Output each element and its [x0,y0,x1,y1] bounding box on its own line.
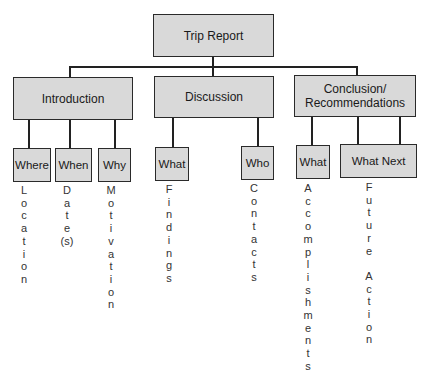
child-label: Why [103,158,126,172]
connector-to-who [257,118,259,146]
child-label: Who [246,156,270,170]
child-node-what-conclusion: What [296,145,330,179]
child-node-what-next: What Next [340,144,417,178]
child-node-where: Where [13,148,51,182]
connector-to-what-next-b [399,117,401,144]
section-label: Conclusion/ Recommendations [305,82,405,110]
connector-to-what-next-a [357,117,359,144]
child-label: What [159,157,186,171]
child-node-what-discussion: What [155,147,189,181]
connector-to-why [114,120,116,148]
root-node-trip-report: Trip Report [153,14,274,57]
root-label: Trip Report [184,29,244,43]
detail-location: L o c a t i o n [16,184,32,286]
child-node-who: Who [241,146,274,180]
child-label: When [58,158,88,172]
child-label: Where [15,158,49,172]
detail-motivation: M o t i v a t i o n [103,184,119,311]
connector-to-when [69,120,71,148]
connector-to-what-discussion [172,118,174,147]
detail-future-action: F u t u r e A c t i o n [361,181,377,346]
section-node-discussion: Discussion [154,76,274,118]
detail-accomplishments: A c c o m p l i s h m e n t s [300,182,316,373]
child-label: What Next [352,154,406,168]
connector-to-conclusion [356,66,358,75]
connector-to-what-conclusion [311,117,313,145]
connector-to-introduction [69,66,71,77]
section-node-conclusion: Conclusion/ Recommendations [294,75,416,117]
connector-to-discussion [212,66,214,76]
detail-contacts: C o n t a c t s [246,182,262,284]
section-label: Discussion [185,90,243,104]
child-node-when: When [55,148,92,182]
connector-to-where [28,120,30,148]
detail-dates: D a t e (s) [59,184,75,248]
section-node-introduction: Introduction [13,77,133,120]
detail-findings: F i n d i n g s [161,183,177,285]
child-label: What [300,155,327,169]
child-node-why: Why [98,148,131,182]
section-label: Introduction [42,92,105,106]
